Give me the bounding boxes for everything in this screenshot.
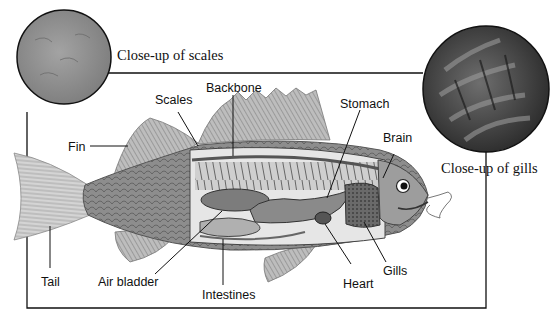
fish-pupil [401, 183, 408, 190]
fishing-line [427, 192, 452, 218]
label-air-bladder: Air bladder [98, 275, 158, 289]
spiny-dorsal-fin [198, 88, 330, 144]
scales-closeup-circle [17, 10, 111, 104]
fish-diagram: Close-up of scales Close-up of gills [0, 0, 557, 320]
gills [345, 183, 380, 227]
gills-closeup [423, 26, 549, 152]
label-brain: Brain [383, 131, 412, 145]
label-stomach: Stomach [340, 97, 389, 111]
intestines [200, 218, 260, 237]
scales-closeup [17, 10, 111, 104]
heart [315, 212, 331, 224]
label-heart: Heart [343, 277, 374, 291]
gills-closeup-caption: Close-up of gills [441, 160, 538, 176]
pelvic-fin [264, 245, 316, 282]
label-tail: Tail [41, 275, 60, 289]
scales-closeup-caption: Close-up of scales [117, 47, 224, 63]
label-intestines: Intestines [202, 288, 256, 302]
label-backbone: Backbone [206, 81, 262, 95]
tail-fin [14, 153, 90, 240]
label-fin: Fin [68, 140, 85, 154]
label-scales: Scales [155, 93, 193, 107]
label-gills: Gills [383, 264, 407, 278]
